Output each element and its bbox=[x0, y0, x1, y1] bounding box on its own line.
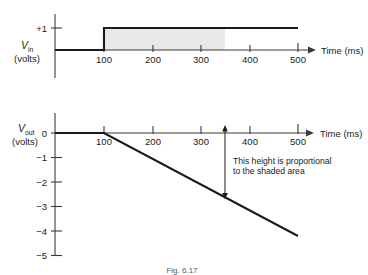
output-signal-trace bbox=[55, 133, 298, 236]
annotation-line-2: to the shaded area bbox=[233, 166, 305, 176]
output-x-tick-label-500: 500 bbox=[290, 136, 306, 147]
output-x-axis-label: Time (ms) bbox=[320, 128, 362, 139]
annotation-line-1: This height is proportional bbox=[233, 156, 331, 166]
output-y-axis-units: (volts) bbox=[12, 136, 38, 147]
output-y-tick-label-minus2: −2 bbox=[36, 177, 47, 188]
figure-caption: Fig. 6.17 bbox=[166, 266, 198, 275]
output-x-axis-arrow-icon bbox=[306, 130, 314, 137]
input-x-tick-label-300: 300 bbox=[193, 54, 209, 65]
waveform-figure: +1 100 200 300 400 500 Time (ms) Vin (vo… bbox=[0, 0, 368, 275]
input-y-tick-label-plus1: +1 bbox=[36, 23, 47, 34]
output-y-axis-label: Vout bbox=[18, 122, 35, 136]
output-x-tick-label-400: 400 bbox=[242, 136, 258, 147]
output-y-tick-label-minus1: −1 bbox=[36, 152, 47, 163]
shaded-area-region bbox=[104, 28, 225, 50]
output-plot-group: 0 −1 −2 −3 −4 −5 100 200 300 400 500 Tim… bbox=[12, 113, 362, 261]
input-y-axis-label-sub: in bbox=[28, 46, 34, 53]
input-plot-group: +1 100 200 300 400 500 Time (ms) Vin (vo… bbox=[14, 14, 363, 78]
output-x-tick-label-200: 200 bbox=[145, 136, 161, 147]
annotation-arrow-head-up-icon bbox=[222, 125, 228, 132]
output-y-tick-label-minus5: −5 bbox=[36, 250, 47, 261]
output-y-tick-label-minus4: −4 bbox=[36, 226, 47, 237]
input-x-axis-arrow-icon bbox=[308, 47, 316, 54]
input-y-axis-label: Vin bbox=[21, 39, 34, 53]
input-x-axis-label: Time (ms) bbox=[321, 45, 363, 56]
output-y-tick-label-0: 0 bbox=[42, 128, 47, 139]
output-y-axis-label-sub: out bbox=[25, 129, 35, 136]
output-x-tick-label-300: 300 bbox=[193, 136, 209, 147]
output-x-tick-label-100: 100 bbox=[96, 136, 112, 147]
input-y-axis-units: (volts) bbox=[14, 53, 40, 64]
input-x-tick-label-200: 200 bbox=[145, 54, 161, 65]
output-y-tick-label-minus3: −3 bbox=[36, 201, 47, 212]
input-x-tick-label-400: 400 bbox=[242, 54, 258, 65]
figure-container: +1 100 200 300 400 500 Time (ms) Vin (vo… bbox=[0, 0, 368, 275]
input-x-tick-label-500: 500 bbox=[290, 54, 306, 65]
input-x-tick-label-100: 100 bbox=[96, 54, 112, 65]
